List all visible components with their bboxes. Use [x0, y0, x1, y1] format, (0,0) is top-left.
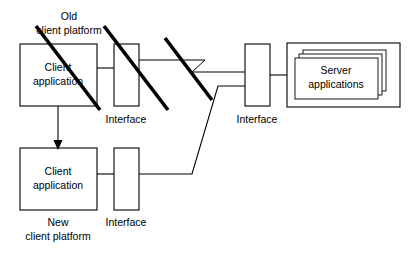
strikethrough-mark-3 [165, 38, 212, 100]
new-client-application-label-line1: Client [45, 165, 72, 177]
server-interface-box [245, 44, 270, 106]
new-platform-label-line1: New [47, 216, 68, 228]
new-interface-box [114, 148, 139, 210]
old-platform-label-line2: client platform [36, 24, 102, 36]
new-client-application-label-line2: application [33, 179, 83, 191]
server-applications-label-line1: Server [321, 64, 352, 76]
diagram-canvas: Old client platform Client application I… [0, 0, 416, 253]
old-interface-label: Interface [106, 113, 147, 125]
line-break-zigzag-icon [192, 60, 205, 72]
new-platform-label-line2: client platform [25, 230, 91, 242]
new-interface-label: Interface [106, 216, 147, 228]
server-applications-label-line2: applications [308, 78, 363, 90]
server-interface-label: Interface [237, 113, 278, 125]
connector-new-interface-to-server-interface [139, 86, 245, 174]
diagram-root: Old client platform Client application I… [0, 0, 416, 253]
old-platform-label-line1: Old [61, 10, 78, 22]
